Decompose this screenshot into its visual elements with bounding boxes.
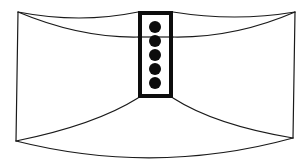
right-edge bbox=[293, 12, 295, 138]
lower-curve-left bbox=[16, 98, 138, 141]
top-edge-right bbox=[173, 12, 295, 17]
dot-3 bbox=[149, 49, 161, 61]
top-edge-left bbox=[18, 12, 138, 18]
upper-inner-curve-left bbox=[18, 12, 138, 37]
left-edge bbox=[16, 12, 18, 141]
lower-curve-right bbox=[173, 98, 293, 138]
bottom-edge-curve bbox=[16, 138, 293, 158]
upper-inner-curve-right bbox=[173, 12, 295, 37]
dot-2 bbox=[149, 35, 161, 47]
diagram-canvas bbox=[0, 0, 307, 164]
dot-4 bbox=[149, 63, 161, 75]
dot-1 bbox=[149, 21, 161, 33]
dot-5 bbox=[149, 77, 161, 89]
